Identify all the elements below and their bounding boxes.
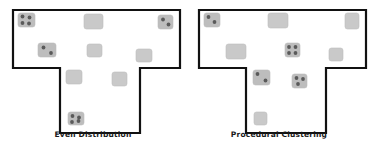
agent-dot	[295, 76, 299, 80]
agent-dot	[28, 16, 32, 20]
agent-dot	[167, 23, 171, 27]
room-top-left	[18, 13, 35, 27]
floor-outline	[199, 10, 366, 133]
agent-dot	[294, 45, 298, 49]
room-occupied	[285, 43, 300, 57]
room-empty	[345, 13, 359, 29]
room-mid-center	[285, 43, 300, 57]
room-empty	[136, 49, 152, 62]
room-top-center	[84, 14, 103, 29]
room-top-right	[345, 13, 359, 29]
agent-dot	[213, 20, 217, 24]
agent-dot	[161, 18, 165, 22]
agent-dot	[301, 77, 305, 81]
room-stem-left	[253, 70, 270, 85]
room-stem-bottom	[68, 112, 84, 125]
room-top-left	[204, 13, 220, 27]
room-occupied	[204, 13, 220, 27]
room-occupied	[253, 70, 270, 85]
room-empty	[84, 14, 103, 29]
agent-dot	[287, 51, 291, 55]
room-occupied	[38, 43, 56, 57]
agent-dot	[71, 114, 75, 118]
room-occupied	[68, 112, 84, 125]
room-stem-right	[292, 74, 307, 88]
agent-dot	[21, 15, 25, 19]
room-stem-left	[66, 70, 82, 84]
room-stem-bottom	[254, 112, 267, 125]
room-stem-right	[112, 72, 127, 86]
room-empty	[226, 44, 246, 59]
room-occupied	[158, 15, 173, 29]
agent-dot	[207, 15, 211, 19]
agent-dot	[256, 72, 260, 76]
agent-dot	[77, 119, 81, 123]
agent-dot	[294, 51, 298, 55]
floorplan-svg	[186, 0, 372, 140]
room-top-right	[158, 15, 173, 29]
agent-dot	[287, 45, 291, 49]
room-empty	[329, 48, 343, 61]
room-mid-left	[38, 43, 56, 57]
agent-dot	[70, 120, 74, 124]
agent-dot	[42, 46, 46, 50]
agent-dot	[21, 21, 25, 25]
panel-procedural-clustering: Procedural Clustering	[186, 0, 372, 152]
room-empty	[87, 44, 102, 57]
agent-dot	[77, 116, 81, 120]
room-empty	[268, 13, 288, 28]
panel-even-distribution: Even Distribution	[0, 0, 186, 152]
agent-dot	[49, 51, 53, 55]
floorplan-svg	[0, 0, 186, 140]
room-empty	[112, 72, 127, 86]
room-mid-right	[329, 48, 343, 61]
room-occupied	[292, 74, 307, 88]
room-mid-left	[226, 44, 246, 59]
room-empty	[66, 70, 82, 84]
room-mid-center	[87, 44, 102, 57]
agent-dot	[264, 79, 268, 83]
room-empty	[254, 112, 267, 125]
floorplan-even-distribution	[0, 0, 186, 140]
room-occupied	[18, 13, 35, 27]
caption-procedural-clustering: Procedural Clustering	[186, 130, 372, 139]
agent-dot	[296, 82, 300, 86]
floorplan-procedural-clustering	[186, 0, 372, 140]
room-top-center	[268, 13, 288, 28]
agent-dot	[27, 22, 31, 26]
caption-even-distribution: Even Distribution	[0, 130, 186, 139]
room-mid-right	[136, 49, 152, 62]
